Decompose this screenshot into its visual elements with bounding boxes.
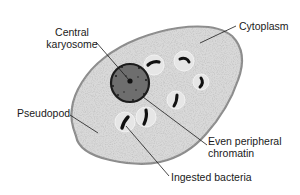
bacterium: [115, 112, 135, 132]
label-pseudopod: Pseudopod: [17, 107, 70, 119]
label-even-peripheral-chromatin-line1: Even peripheral: [208, 135, 282, 147]
nucleus: [111, 64, 149, 102]
bacterium: [144, 55, 164, 75]
label-ingested-bacteria: Ingested bacteria: [171, 171, 252, 183]
label-central-karyosome-line2: karyosome: [42, 38, 102, 50]
bacterium: [193, 74, 209, 90]
label-cytoplasm: Cytoplasm: [239, 20, 289, 32]
label-central-karyosome-line1: Central: [42, 26, 102, 38]
label-even-peripheral-chromatin: Even peripheral chromatin: [208, 135, 282, 159]
label-central-karyosome: Central karyosome: [42, 26, 102, 50]
bacterium: [136, 107, 156, 127]
label-even-peripheral-chromatin-line2: chromatin: [208, 147, 282, 159]
bacterium: [167, 91, 185, 109]
bacterium: [174, 51, 194, 71]
